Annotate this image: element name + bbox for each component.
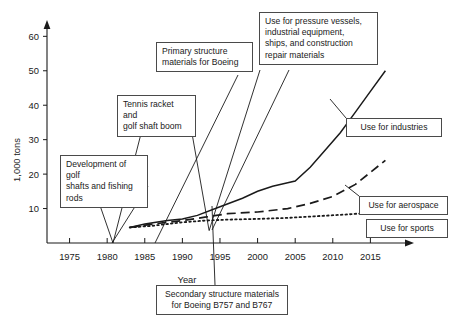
y-tick-label: 40 bbox=[29, 100, 39, 111]
y-tick-group: 102030405060 bbox=[29, 31, 47, 214]
x-tick-label: 1985 bbox=[134, 251, 155, 262]
leader-use-industries bbox=[330, 99, 346, 118]
leader-pressure-vessels bbox=[212, 70, 289, 230]
x-tick-label: 1995 bbox=[210, 251, 231, 262]
x-tick-label: 2005 bbox=[285, 251, 306, 262]
callout-golf-shafts: Development of golf shafts and fishing r… bbox=[60, 155, 148, 208]
callout-secondary-structure: Secondary structure materials for Boeing… bbox=[156, 285, 288, 315]
x-tick-label: 1980 bbox=[97, 251, 118, 262]
callout-primary-structure: Primary structure materials for Boeing bbox=[156, 42, 253, 72]
x-tick-label: 2000 bbox=[247, 251, 268, 262]
x-tick-label: 2010 bbox=[322, 251, 343, 262]
x-axis-arrow bbox=[405, 240, 414, 247]
label-use-sports: Use for sports bbox=[366, 219, 448, 238]
y-axis-label: 1,000 tons bbox=[11, 138, 22, 182]
x-axis-label: Year bbox=[178, 274, 197, 285]
label-use-industries: Use for industries bbox=[346, 118, 442, 137]
x-tick-label: 2015 bbox=[360, 251, 381, 262]
y-tick-label: 60 bbox=[29, 31, 39, 42]
leader-primary-structure-2 bbox=[209, 70, 260, 231]
x-tick-group: 197519801985199019952000200520102015 bbox=[59, 238, 381, 262]
x-tick-label: 1975 bbox=[59, 251, 80, 262]
y-tick-label: 10 bbox=[29, 203, 39, 214]
series-dotted bbox=[130, 212, 386, 228]
y-tick-label: 50 bbox=[29, 65, 39, 76]
x-tick-label: 1990 bbox=[172, 251, 193, 262]
y-axis-arrow bbox=[44, 20, 51, 29]
y-tick-label: 20 bbox=[29, 169, 39, 180]
callout-pressure-vessels: Use for pressure vessels, industrial equ… bbox=[259, 12, 378, 65]
y-tick-label: 30 bbox=[29, 134, 39, 145]
label-use-aerospace: Use for aerospace bbox=[359, 196, 448, 215]
chart-container: 102030405060 197519801985199019952000200… bbox=[0, 0, 450, 326]
callout-tennis-racket: Tennis racket and golf shaft boom bbox=[117, 95, 196, 137]
